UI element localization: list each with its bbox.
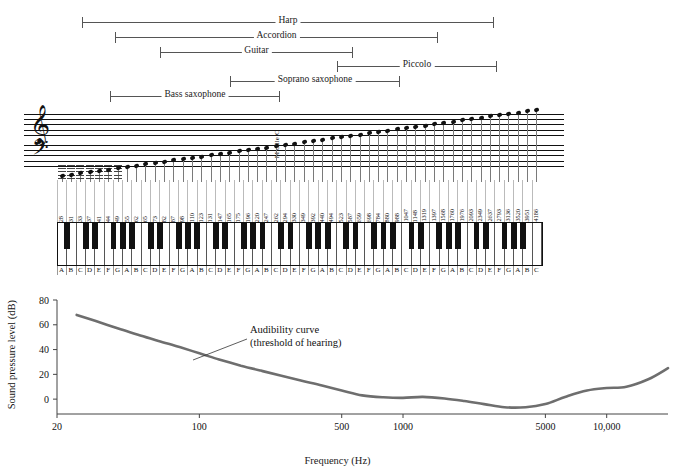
audibility-curve-line	[77, 315, 668, 408]
black-key-19[interactable]	[241, 223, 247, 249]
black-key-2[interactable]	[83, 223, 89, 249]
note-letter-divider	[364, 266, 365, 275]
black-key-12[interactable]	[176, 223, 182, 249]
range-end-cap	[437, 32, 438, 43]
black-key-20[interactable]	[250, 223, 256, 249]
note-letter-divider	[346, 266, 347, 275]
black-key-33[interactable]	[371, 223, 377, 249]
ledger-line	[67, 165, 75, 166]
black-key-21[interactable]	[260, 223, 266, 249]
frequency-label: 220	[254, 213, 260, 222]
x-tick-label: 100	[192, 421, 207, 432]
black-key-9[interactable]	[148, 223, 154, 249]
note-letter-divider	[131, 266, 132, 275]
note-stem	[499, 115, 500, 182]
x-tick-label: 20	[52, 421, 62, 432]
frequency-label: 1397	[431, 209, 437, 222]
chart-plot-area: 020406080201005001000500010,000	[0, 288, 675, 468]
note-letter-divider	[420, 266, 421, 275]
note-letter-D-45: D	[476, 265, 485, 276]
staff-line	[24, 124, 564, 125]
black-key-31[interactable]	[353, 223, 359, 249]
note-letter-divider	[401, 266, 402, 275]
frequency-label: 392	[310, 213, 316, 222]
note-stem	[285, 145, 286, 182]
black-key-38[interactable]	[418, 223, 424, 249]
note-letter-row: ABCDEFGABCDEFGABCDEFGABCDEFGABCDEFGABCDE…	[57, 265, 541, 276]
black-key-48[interactable]	[511, 223, 517, 249]
note-letter-E-11: E	[159, 265, 168, 276]
frequency-label: 3951	[524, 209, 530, 222]
black-key-23[interactable]	[278, 223, 284, 249]
note-letter-A-7: A	[122, 265, 131, 276]
black-key-24[interactable]	[288, 223, 294, 249]
ledger-line	[95, 165, 103, 166]
note-letter-divider	[485, 266, 486, 275]
black-key-30[interactable]	[343, 223, 349, 249]
instrument-range-piccolo: Piccolo	[337, 60, 497, 72]
note-letter-divider	[476, 266, 477, 275]
black-key-49[interactable]	[520, 223, 526, 249]
black-key-5[interactable]	[111, 223, 117, 249]
black-key-37[interactable]	[409, 223, 415, 249]
black-key-45[interactable]	[483, 223, 489, 249]
black-key-44[interactable]	[474, 223, 480, 249]
black-key-7[interactable]	[129, 223, 135, 249]
frequency-label: 1047	[403, 209, 409, 222]
note-letter-D-31: D	[346, 265, 355, 276]
range-end-cap	[337, 61, 338, 72]
ledger-line	[104, 165, 112, 166]
black-key-28[interactable]	[325, 223, 331, 249]
note-letter-B-36: B	[392, 265, 401, 276]
white-key-C-51[interactable]	[533, 223, 542, 265]
frequency-label: 659	[356, 213, 362, 222]
black-key-41[interactable]	[446, 223, 452, 249]
ledger-line	[95, 175, 103, 176]
note-stem	[304, 142, 305, 182]
black-key-0[interactable]	[64, 223, 70, 249]
black-key-16[interactable]	[213, 223, 219, 249]
black-key-35[interactable]	[390, 223, 396, 249]
note-letter-divider	[206, 266, 207, 275]
note-stem	[229, 153, 230, 182]
note-letter-divider	[197, 266, 198, 275]
ledger-line	[76, 168, 84, 169]
note-stem	[220, 154, 221, 182]
black-key-14[interactable]	[194, 223, 200, 249]
note-letter-B-29: B	[327, 265, 336, 276]
black-key-34[interactable]	[381, 223, 387, 249]
note-stem	[481, 118, 482, 182]
frequency-label: 349	[300, 213, 306, 222]
black-key-10[interactable]	[157, 223, 163, 249]
staff-line	[24, 119, 564, 120]
piano-keyboard[interactable]	[57, 222, 543, 266]
black-key-27[interactable]	[315, 223, 321, 249]
note-stem	[173, 160, 174, 182]
note-letter-B-22: B	[262, 265, 271, 276]
note-letter-F-33: F	[364, 265, 373, 276]
figure-root: HarpAccordionGuitarPiccoloSoprano saxoph…	[0, 0, 675, 468]
black-key-40[interactable]	[436, 223, 442, 249]
range-end-cap	[493, 17, 494, 28]
note-letter-F-26: F	[299, 265, 308, 276]
black-key-26[interactable]	[306, 223, 312, 249]
black-key-6[interactable]	[120, 223, 126, 249]
range-label-guitar: Guitar	[241, 44, 271, 56]
black-key-42[interactable]	[455, 223, 461, 249]
black-key-47[interactable]	[502, 223, 508, 249]
note-stem	[257, 149, 258, 182]
black-key-17[interactable]	[222, 223, 228, 249]
note-letter-F-19: F	[234, 265, 243, 276]
frequency-label: 2793	[496, 209, 502, 222]
note-letter-G-20: G	[243, 265, 252, 276]
note-letter-G-13: G	[178, 265, 187, 276]
x-tick-label: 5000	[535, 421, 555, 432]
note-letter-B-50: B	[522, 265, 531, 276]
frequency-label: 247	[263, 213, 269, 222]
note-letter-divider	[262, 266, 263, 275]
black-key-13[interactable]	[185, 223, 191, 249]
range-end-cap	[115, 32, 116, 43]
frequency-label: 494	[328, 213, 334, 222]
black-key-3[interactable]	[92, 223, 98, 249]
note-letter-C-2: C	[76, 265, 85, 276]
